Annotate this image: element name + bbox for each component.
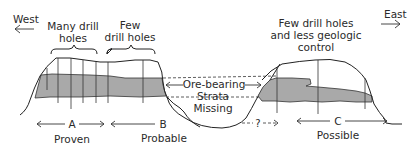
few-drill-holes-line2: drill holes [105, 31, 156, 43]
zone-c-label: Possible [317, 129, 359, 141]
zone-c-range [297, 118, 387, 124]
left-arrow-icon [15, 25, 34, 33]
zone-c-letter: C [334, 115, 341, 127]
zone-b-letter: B [159, 118, 166, 130]
east-direction: East [381, 8, 407, 28]
ore-bearing-label: Ore-bearing [183, 78, 246, 90]
west-label: West [13, 13, 39, 25]
ore-bearing-right-arrow-icon [245, 82, 261, 88]
zone-b-range [111, 121, 155, 127]
ore-layer-left [35, 74, 166, 98]
less-control-line3: control [298, 41, 334, 53]
few-drill-holes-line1: Few [120, 19, 141, 31]
brace-many-holes [51, 45, 97, 54]
right-arrow-icon [381, 20, 400, 28]
less-control-line1: Few drill holes [279, 17, 354, 29]
missing-label: Missing [193, 102, 232, 114]
east-label: East [384, 8, 407, 20]
zone-b-label: Probable [141, 132, 187, 144]
ore-reserve-cross-section: West East Many drill holes Few drill hol… [0, 0, 418, 149]
ore-layer-right [258, 78, 372, 102]
many-drill-holes-line1: Many drill [47, 20, 98, 32]
zone-a-letter: A [68, 118, 76, 130]
west-direction: West [13, 13, 39, 33]
strata-label: Strata [197, 90, 229, 102]
brace-few-holes [107, 45, 155, 54]
many-drill-holes-line2: holes [59, 32, 87, 44]
less-control-line2: and less geologic [271, 29, 362, 41]
zone-a-label: Proven [54, 133, 90, 145]
question-mark-label: ? [255, 118, 260, 129]
ore-bearing-left-arrow-icon [166, 82, 183, 88]
